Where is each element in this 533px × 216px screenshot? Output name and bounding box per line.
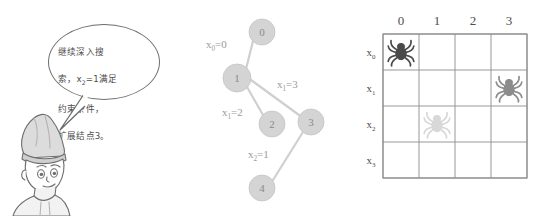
tree-node-4[interactable]: 4 [249,175,275,201]
spider-glyph-shape [496,77,522,102]
spider-icon[interactable] [496,77,522,102]
board-col-header-3: 3 [506,13,513,28]
placement-board: 0123 x0x1x2x3 [340,0,533,216]
tree-edge-label-2: x1=2 [222,106,243,121]
spider-glyph-shape [388,41,414,66]
spider-glyph-shape [424,113,450,138]
tree-node-label-3: 3 [308,116,314,128]
tree-edge-0-1 [246,41,253,69]
tree-edge-label-1: x1=3 [277,78,298,93]
tree-node-2[interactable]: 2 [259,111,285,137]
placement-board-panel: 0123 x0x1x2x3 [340,0,533,216]
tree-node-label-4: 4 [259,182,265,194]
board-col-header-1: 1 [434,13,441,28]
search-tree-diagram: x0=0x1=3x1=2x2=1 01234 [190,0,340,216]
board-row-header-group: x0x1x2x3 [367,46,377,169]
tree-node-label-1: 1 [234,72,240,84]
tree-node-label-2: 2 [269,118,275,130]
board-row-header-2: x2 [367,118,377,133]
board-row-header-0: x0 [367,46,377,61]
tree-node-3[interactable]: 3 [298,109,324,135]
cartoon-boy-figure [8,108,80,216]
board-col-header-0: 0 [398,13,405,28]
board-row-header-1: x1 [367,82,377,97]
search-tree-panel: x0=0x1=3x1=2x2=1 01234 [190,0,340,216]
tree-edge-1-2 [247,87,263,115]
spider-icon[interactable] [424,113,450,138]
speech-line-2-pre: 索，x [58,74,82,84]
spider-icon[interactable] [388,41,414,66]
speech-line-2-post: =1满足 [86,74,117,84]
board-row-header-3: x3 [367,154,377,169]
tree-node-0[interactable]: 0 [249,19,275,45]
tree-edge-label-group: x0=0x1=3x1=2x2=1 [206,38,298,163]
board-column-header-group: 0123 [398,13,513,28]
character-panel: 继续深入搜 索，x2=1满足 约束条件， 扩展结点3。 [0,0,180,216]
speech-line-1: 继续深入搜 [58,47,104,57]
board-col-header-2: 2 [470,13,477,28]
tree-edge-label-0: x0=0 [206,38,227,53]
tree-node-1[interactable]: 1 [223,64,251,92]
speech-bubble: 继续深入搜 索，x2=1满足 约束条件， 扩展结点3。 [48,24,160,100]
tree-edge-3-4 [273,132,303,180]
tree-node-label-0: 0 [259,26,265,38]
tree-edge-label-3: x2=1 [248,148,269,163]
